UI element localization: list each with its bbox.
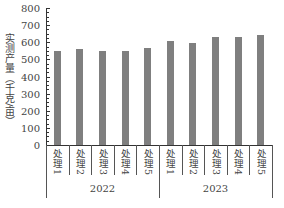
category-label: 处理3 [92,147,114,177]
x-separator [46,145,47,198]
y-minor-tick [47,106,49,107]
y-minor-tick [47,34,49,35]
x-separator [182,145,183,175]
category-label-text: 处理2 [186,149,200,175]
x-separator [227,145,228,175]
x-separator [136,145,137,175]
category-label-text: 处理4 [118,149,132,175]
y-tick-label: 100 [21,122,40,133]
bar [212,37,219,145]
y-tick-label: 600 [21,37,40,48]
y-tick-label: 800 [21,3,40,14]
group-label: 2023 [203,183,228,194]
y-minor-tick [47,98,49,99]
category-label-text: 处理3 [96,149,110,175]
y-tick [47,77,50,78]
y-axis-title: 实测产量（千克/亩） [2,20,16,140]
category-label: 处理5 [250,147,272,177]
bar [144,48,151,145]
y-minor-tick [47,55,49,56]
category-label-text: 处理2 [73,149,87,175]
y-tick [47,128,50,129]
y-minor-tick [47,136,49,137]
y-minor-tick [47,68,49,69]
category-label-text: 处理1 [50,149,64,175]
y-minor-tick [47,21,49,22]
bar [189,43,196,145]
category-label: 处理1 [46,147,68,177]
y-axis-line [46,8,47,145]
x-separator [249,145,250,175]
y-tick [47,94,50,95]
x-separator [114,145,115,175]
y-tick [47,8,50,9]
y-minor-tick [47,89,49,90]
y-tick [47,25,50,26]
category-label-text: 处理5 [254,149,268,175]
y-minor-tick [47,17,49,18]
bar [167,41,174,145]
x-separator [91,145,92,175]
category-label: 处理3 [205,147,227,177]
y-minor-tick [47,64,49,65]
category-label: 处理2 [182,147,204,177]
y-tick-label: 700 [21,20,40,31]
category-label: 处理2 [69,147,91,177]
y-axis-title-text: 实测产量（千克/亩） [2,33,17,126]
y-minor-tick [47,38,49,39]
y-tick [47,59,50,60]
group-label: 2022 [90,183,115,194]
y-minor-tick [47,124,49,125]
y-tick [47,42,50,43]
category-label: 处理4 [227,147,249,177]
y-minor-tick [47,115,49,116]
y-minor-tick [47,72,49,73]
bar [257,35,264,145]
y-minor-tick [47,102,49,103]
y-tick-label: 300 [21,88,40,99]
x-separator [204,145,205,175]
bar [99,51,106,145]
y-tick-label: 200 [21,105,40,116]
y-tick-label: 500 [21,54,40,65]
bar [235,37,242,145]
y-minor-tick [47,132,49,133]
category-label: 处理1 [159,147,181,177]
y-minor-tick [47,85,49,86]
y-tick-label: 400 [21,71,40,82]
category-label: 处理5 [137,147,159,177]
category-label-text: 处理5 [141,149,155,175]
y-minor-tick [47,141,49,142]
y-minor-tick [47,12,49,13]
category-label-text: 处理3 [209,149,223,175]
x-separator [69,145,70,175]
y-tick [47,111,50,112]
y-tick-label: 0 [34,140,40,151]
category-label: 处理4 [114,147,136,177]
bar [122,51,129,145]
y-minor-tick [47,47,49,48]
y-minor-tick [47,119,49,120]
category-label-text: 处理1 [163,149,177,175]
y-minor-tick [47,29,49,30]
category-label-text: 处理4 [231,149,245,175]
x-separator [159,145,160,198]
y-minor-tick [47,51,49,52]
bar [54,51,61,145]
y-minor-tick [47,81,49,82]
bar [76,49,83,145]
x-separator [272,145,273,198]
